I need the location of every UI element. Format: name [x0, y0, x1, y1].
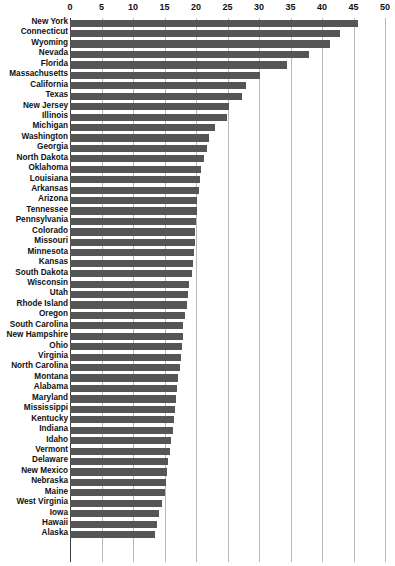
- category-label-pennsylvania: Pennsylvania: [0, 215, 68, 225]
- category-label-kentucky: Kentucky: [0, 414, 68, 424]
- category-label-utah: Utah: [0, 288, 68, 298]
- category-label-west-virginia: West Virginia: [0, 497, 68, 507]
- category-label-idaho: Idaho: [0, 435, 68, 445]
- x-tick-label-40: 40: [317, 1, 327, 13]
- bar-chart: 05101520253035404550 New YorkConnecticut…: [0, 0, 395, 566]
- x-tick-label-0: 0: [67, 1, 72, 13]
- bar-california: [70, 82, 246, 89]
- bar-indiana: [70, 427, 173, 434]
- bar-new-hampshire: [70, 333, 183, 340]
- category-label-hawaii: Hawaii: [0, 518, 68, 528]
- bar-mississippi: [70, 406, 175, 413]
- bar-massachusetts: [70, 72, 260, 79]
- category-label-missouri: Missouri: [0, 236, 68, 246]
- category-label-ohio: Ohio: [0, 341, 68, 351]
- category-label-connecticut: Connecticut: [0, 27, 68, 37]
- bar-oklahoma: [70, 166, 201, 173]
- category-label-iowa: Iowa: [0, 508, 68, 518]
- bar-iowa: [70, 510, 159, 517]
- bar-maine: [70, 489, 165, 496]
- category-label-vermont: Vermont: [0, 445, 68, 455]
- bar-south-carolina: [70, 322, 183, 329]
- category-label-rhode-island: Rhode Island: [0, 299, 68, 309]
- bar-ohio: [70, 343, 182, 350]
- x-axis-tick-labels: 05101520253035404550: [0, 0, 395, 18]
- category-label-south-dakota: South Dakota: [0, 268, 68, 278]
- bar-new-mexico: [70, 468, 167, 475]
- bar-connecticut: [70, 30, 340, 37]
- x-tick-label-5: 5: [99, 1, 104, 13]
- bar-illinois: [70, 114, 227, 121]
- category-label-illinois: Illinois: [0, 111, 68, 121]
- bar-rows: New YorkConnecticutWyomingNevadaFloridaM…: [0, 18, 395, 566]
- bar-vermont: [70, 448, 170, 455]
- bar-louisiana: [70, 176, 200, 183]
- x-tick-label-20: 20: [191, 1, 201, 13]
- bar-new-jersey: [70, 103, 229, 110]
- category-label-massachusetts: Massachusetts: [0, 69, 68, 79]
- category-label-nevada: Nevada: [0, 48, 68, 58]
- category-label-alaska: Alaska: [0, 528, 68, 538]
- category-label-maine: Maine: [0, 487, 68, 497]
- category-label-north-dakota: North Dakota: [0, 153, 68, 163]
- bar-maryland: [70, 395, 176, 402]
- bar-nebraska: [70, 479, 166, 486]
- category-label-florida: Florida: [0, 59, 68, 69]
- bar-arkansas: [70, 187, 199, 194]
- bar-oregon: [70, 312, 185, 319]
- bar-virginia: [70, 354, 181, 361]
- x-tick-label-10: 10: [128, 1, 138, 13]
- category-label-new-hampshire: New Hampshire: [0, 330, 68, 340]
- category-label-wisconsin: Wisconsin: [0, 278, 68, 288]
- bar-missouri: [70, 239, 195, 246]
- bar-texas: [70, 93, 242, 100]
- category-label-texas: Texas: [0, 90, 68, 100]
- bar-hawaii: [70, 521, 157, 528]
- x-tick-label-30: 30: [254, 1, 264, 13]
- category-label-washington: Washington: [0, 132, 68, 142]
- bar-montana: [70, 374, 178, 381]
- bar-row: Alaska: [0, 529, 395, 539]
- bar-georgia: [70, 145, 207, 152]
- bar-florida: [70, 61, 287, 68]
- bar-south-dakota: [70, 270, 192, 277]
- category-label-colorado: Colorado: [0, 226, 68, 236]
- bar-wisconsin: [70, 281, 189, 288]
- bar-kentucky: [70, 416, 174, 423]
- x-tick-label-35: 35: [285, 1, 295, 13]
- category-label-virginia: Virginia: [0, 351, 68, 361]
- bar-minnesota: [70, 249, 194, 256]
- bar-washington: [70, 134, 209, 141]
- category-label-new-york: New York: [0, 17, 68, 27]
- category-label-oregon: Oregon: [0, 309, 68, 319]
- category-label-north-carolina: North Carolina: [0, 361, 68, 371]
- category-label-nebraska: Nebraska: [0, 476, 68, 486]
- x-tick-label-50: 50: [380, 1, 390, 13]
- category-label-michigan: Michigan: [0, 121, 68, 131]
- bar-michigan: [70, 124, 215, 131]
- bar-rhode-island: [70, 301, 187, 308]
- category-label-kansas: Kansas: [0, 257, 68, 267]
- category-label-south-carolina: South Carolina: [0, 320, 68, 330]
- category-label-maryland: Maryland: [0, 393, 68, 403]
- category-label-montana: Montana: [0, 372, 68, 382]
- x-tick-label-15: 15: [159, 1, 169, 13]
- bar-utah: [70, 291, 188, 298]
- bar-idaho: [70, 437, 171, 444]
- x-tick-label-45: 45: [348, 1, 358, 13]
- bar-north-dakota: [70, 155, 204, 162]
- category-label-new-jersey: New Jersey: [0, 101, 68, 111]
- bar-north-carolina: [70, 364, 180, 371]
- category-label-tennessee: Tennessee: [0, 205, 68, 215]
- bar-alabama: [70, 385, 177, 392]
- bar-pennsylvania: [70, 218, 196, 225]
- category-label-georgia: Georgia: [0, 142, 68, 152]
- category-label-arizona: Arizona: [0, 194, 68, 204]
- category-label-louisiana: Louisiana: [0, 174, 68, 184]
- category-label-california: California: [0, 80, 68, 90]
- bar-alaska: [70, 531, 155, 538]
- category-label-delaware: Delaware: [0, 455, 68, 465]
- x-tick-label-25: 25: [222, 1, 232, 13]
- category-label-oklahoma: Oklahoma: [0, 163, 68, 173]
- category-label-arkansas: Arkansas: [0, 184, 68, 194]
